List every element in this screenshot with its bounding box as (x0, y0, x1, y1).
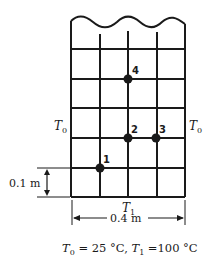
right-boundary-label: T0 (189, 119, 202, 135)
spacing-dimension (37, 168, 70, 197)
node-4: 4 (124, 65, 140, 84)
svg-text:4: 4 (132, 65, 139, 76)
fd-grid-diagram: 4 2 3 1 T0 T0 T1 0.1 m 0.4 m T0 = 25 °C,… (0, 0, 216, 270)
node-2: 2 (124, 124, 139, 143)
node-1: 1 (96, 154, 111, 173)
wavy-top-edge (71, 17, 185, 28)
left-boundary-label: T0 (54, 119, 67, 135)
node-3: 3 (152, 124, 167, 143)
svg-text:3: 3 (159, 124, 166, 135)
vertical-grid-lines (100, 31, 157, 197)
svg-text:1: 1 (103, 154, 110, 165)
width-label: 0.4 m (110, 212, 142, 225)
svg-text:2: 2 (131, 124, 138, 135)
spacing-label: 0.1 m (9, 177, 41, 190)
temperature-conditions: T0 = 25 °C, T1 =100 °C (62, 241, 198, 257)
